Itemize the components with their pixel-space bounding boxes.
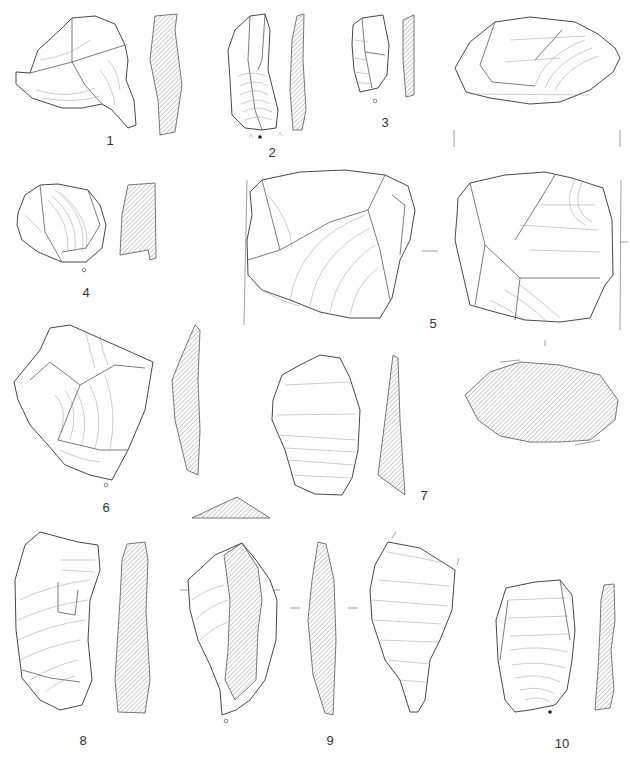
figure-10 — [496, 580, 615, 714]
marker-open-dot — [82, 268, 86, 272]
artifact-6-dorsal — [14, 325, 153, 480]
figure-number-4: 4 — [82, 285, 89, 300]
artifact-3-section — [403, 15, 414, 97]
arrow-mark-left — [249, 134, 253, 138]
figure-6 — [14, 325, 270, 518]
artifact-6-cross-section — [192, 497, 270, 518]
artifact-8-section — [115, 542, 150, 713]
artifact-2-section — [290, 14, 306, 130]
scale-line — [244, 180, 247, 325]
figure-number-9: 9 — [326, 733, 333, 748]
marker-filled-dot — [258, 135, 262, 139]
artifact-6-section — [172, 325, 200, 475]
arrow-mark-right — [278, 132, 282, 136]
figure-3 — [352, 15, 414, 103]
figure-7 — [272, 355, 405, 495]
artifact-9-ventral — [370, 542, 455, 712]
figure-number-10: 10 — [555, 736, 569, 751]
scale-line — [620, 180, 621, 330]
artifact-5-section — [465, 362, 618, 442]
artifact-7-section — [378, 355, 405, 495]
artifact-1-section — [150, 14, 182, 135]
figure-1 — [16, 14, 182, 135]
section-guide — [500, 360, 520, 362]
marker-filled-dot — [548, 710, 552, 714]
figure-number-5: 5 — [429, 316, 436, 331]
figure-number-1: 1 — [106, 133, 113, 148]
artifact-7-dorsal — [272, 355, 360, 495]
figure-number-8: 8 — [79, 733, 86, 748]
artifact-9-section — [308, 542, 336, 715]
figure-5-section — [465, 360, 618, 445]
artifact-5-platform — [455, 17, 620, 104]
lithic-plate — [0, 0, 630, 763]
artifact-2-dorsal — [228, 14, 278, 130]
marker-open-dot — [224, 719, 228, 723]
figure-9 — [180, 532, 459, 723]
figure-number-7: 7 — [420, 488, 427, 503]
figure-number-6: 6 — [102, 500, 109, 515]
artifact-5-face-b — [455, 172, 613, 322]
figure-5-platform — [454, 17, 620, 147]
axis-mark — [392, 532, 396, 538]
figure-number-2: 2 — [268, 145, 275, 160]
marker-open-dot — [373, 99, 377, 103]
axis-mark — [457, 558, 459, 565]
figure-number-3: 3 — [381, 115, 388, 130]
artifact-4-section — [120, 183, 156, 260]
artifact-10-section — [595, 584, 615, 710]
artifact-9-hatched-retouch — [224, 543, 262, 700]
figure-8 — [15, 532, 150, 713]
marker-open-dot — [104, 483, 108, 487]
figure-2 — [228, 14, 306, 139]
figure-4 — [17, 183, 156, 272]
